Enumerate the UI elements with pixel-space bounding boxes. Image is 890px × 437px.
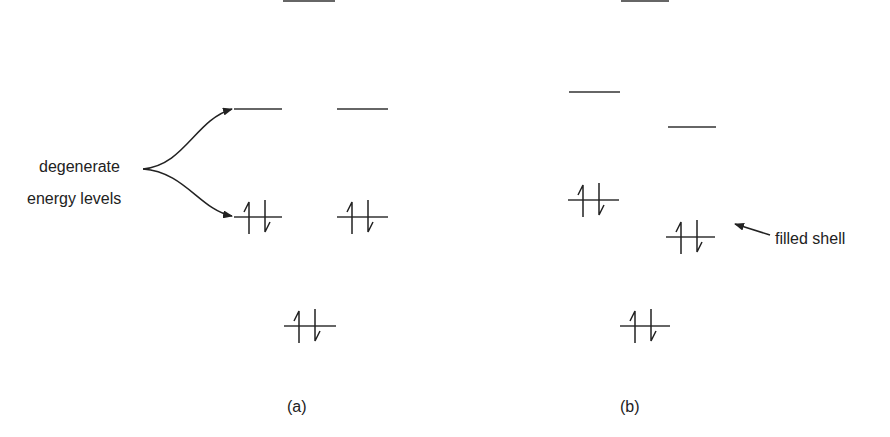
- spin-up-arrow-icon: [578, 185, 583, 217]
- panel-a-label: (a): [287, 398, 307, 416]
- energy-level: [284, 309, 336, 343]
- spin-down-arrow-icon: [315, 309, 320, 341]
- energy-level: [666, 220, 715, 254]
- arrow-to-lower-degenerate: [143, 169, 232, 216]
- spin-up-arrow-icon: [244, 202, 249, 234]
- energy-level-diagram: [0, 0, 890, 437]
- energy-level: [568, 183, 619, 217]
- energy-level: [234, 200, 282, 234]
- spin-up-arrow-icon: [294, 311, 299, 343]
- filled-shell-label: filled shell: [775, 230, 845, 248]
- degenerate-label: degenerate: [39, 158, 120, 176]
- spin-down-arrow-icon: [368, 200, 373, 232]
- spin-up-arrow-icon: [630, 311, 635, 343]
- arrow-to-filled-shell: [735, 224, 770, 235]
- energy-level: [620, 309, 670, 343]
- energy-levels-label: energy levels: [27, 190, 121, 208]
- spin-down-arrow-icon: [651, 309, 656, 341]
- spin-down-arrow-icon: [697, 220, 702, 252]
- energy-level: [337, 200, 388, 234]
- spin-down-arrow-icon: [265, 200, 270, 232]
- arrow-to-upper-degenerate: [143, 109, 232, 169]
- spin-down-arrow-icon: [599, 183, 604, 215]
- energy-levels: [234, 1, 716, 343]
- panel-b-label: (b): [620, 398, 640, 416]
- spin-up-arrow-icon: [347, 202, 352, 234]
- spin-up-arrow-icon: [676, 222, 681, 254]
